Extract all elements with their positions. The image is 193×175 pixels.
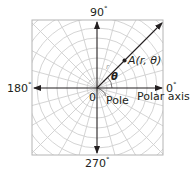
label-90-deg: 90°	[90, 7, 108, 18]
label-270-deg: 270°	[85, 158, 110, 169]
point-a-label: A(r, θ)	[128, 55, 161, 66]
pole-label: Pole	[106, 95, 129, 106]
polar-axis-label: Polar axis	[137, 91, 190, 102]
origin-label: 0	[89, 92, 96, 103]
theta-label: θ	[111, 72, 118, 82]
label-180-deg: 180°	[7, 83, 32, 94]
point-a	[123, 59, 127, 63]
r-label: r	[106, 64, 109, 71]
